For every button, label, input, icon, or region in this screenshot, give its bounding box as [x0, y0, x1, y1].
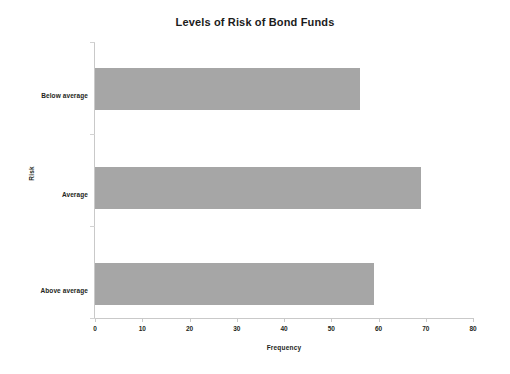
x-tick-label-20: 20	[175, 325, 205, 332]
x-tick-label-50: 50	[316, 325, 346, 332]
x-tick-80	[473, 318, 474, 322]
y-tick-label-below-average: Below average	[0, 92, 88, 99]
x-tick-label-70: 70	[411, 325, 441, 332]
x-tick-50	[331, 318, 332, 322]
x-tick-label-10: 10	[127, 325, 157, 332]
y-tick-label-above-average: Above average	[0, 287, 88, 294]
bar-chart: Levels of Risk of Bond Funds Risk Freque…	[0, 0, 510, 374]
y-tick-label-average: Average	[0, 191, 88, 198]
y-axis-title: Risk	[28, 159, 35, 189]
x-tick-0	[95, 318, 96, 322]
x-tick-label-40: 40	[269, 325, 299, 332]
x-tick-60	[379, 318, 380, 322]
y-tick-1	[90, 134, 95, 135]
bar-above-average	[95, 263, 374, 305]
y-tick-2	[90, 226, 95, 227]
x-tick-label-0: 0	[80, 325, 110, 332]
x-tick-label-30: 30	[222, 325, 252, 332]
x-axis-title: Frequency	[95, 344, 473, 351]
plot-area	[95, 42, 473, 318]
bar-below-average	[95, 68, 360, 110]
x-tick-label-60: 60	[364, 325, 394, 332]
x-tick-30	[237, 318, 238, 322]
bar-average	[95, 167, 421, 209]
x-tick-70	[426, 318, 427, 322]
x-tick-label-80: 80	[458, 325, 488, 332]
chart-title: Levels of Risk of Bond Funds	[0, 16, 510, 28]
x-tick-40	[284, 318, 285, 322]
y-tick-0	[90, 42, 95, 43]
x-tick-10	[142, 318, 143, 322]
x-tick-20	[190, 318, 191, 322]
